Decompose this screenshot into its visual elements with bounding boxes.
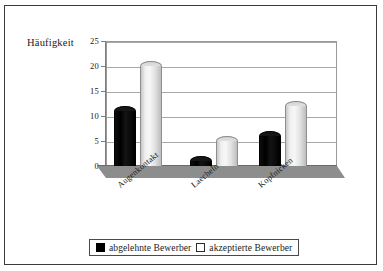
y-tick-label-0: 0	[77, 161, 99, 171]
bar-kopfnicken-abgelehnte	[259, 131, 281, 166]
legend-label-abgelehnte: abgelehnte Bewerber	[109, 243, 191, 253]
y-tick-label-20: 20	[77, 61, 99, 71]
bar-body	[216, 141, 238, 166]
y-tick-label-15: 15	[77, 86, 99, 96]
bars-layer	[106, 41, 337, 166]
legend-label-akzeptierte: akzeptierte Bewerber	[209, 243, 292, 253]
chart-legend: abgelehnte Bewerber akzeptierte Bewerber	[89, 239, 299, 256]
bar-laecheln-akzeptierte	[216, 136, 238, 166]
legend-swatch-filled-square	[96, 243, 105, 252]
bar-body	[114, 111, 136, 166]
bar-augenkontakt-abgelehnte	[114, 106, 136, 166]
y-tick-label-25: 25	[77, 36, 99, 46]
legend-item-abgelehnte: abgelehnte Bewerber	[96, 243, 191, 253]
legend-item-akzeptierte: akzeptierte Bewerber	[196, 243, 292, 253]
y-tick-label-10: 10	[77, 111, 99, 121]
chart-frame: Häufigkeit 25 20 15 10 5 0	[4, 5, 377, 265]
bar-body	[259, 136, 281, 166]
y-axis-title: Häufigkeit	[27, 37, 74, 48]
y-tick-label-5: 5	[77, 136, 99, 146]
legend-swatch-outlined-square	[196, 243, 205, 252]
